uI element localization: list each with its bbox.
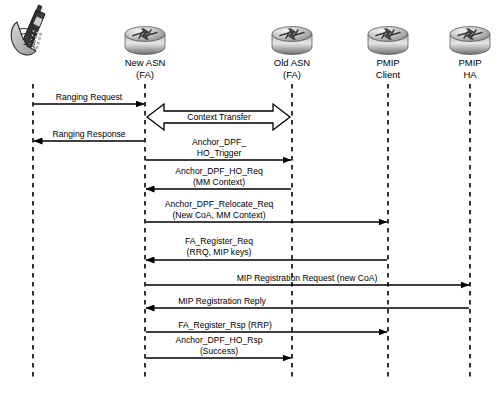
message-label-line1: Anchor_DPF_HO_Req [175,166,262,177]
node-label-old_asn: Old ASN(FA) [274,57,310,80]
message-label-7: FA_Register_Req(RRQ, MIP keys) [185,236,253,257]
node-label-line2: Client [376,69,400,81]
message-label-line1: Anchor_DPF_ [192,137,246,148]
message-label-line1: Ranging Request [56,92,122,103]
message-label-line1: MIP Registration Reply [178,296,266,307]
message-label-9: MIP Registration Reply [178,296,266,307]
node-label-line2: (FA) [125,69,166,81]
message-label-5: Anchor_DPF_HO_Req(MM Context) [175,166,262,187]
message-label-line2: (RRQ, MIP keys) [185,247,253,258]
mobile-phone-in-hand-icon [11,5,45,55]
message-label-6: Anchor_DPF_Relocate_Req(New CoA, MM Cont… [165,199,273,220]
message-label-line2: (Success) [176,346,263,357]
node-label-line1: New ASN [125,57,166,69]
node-label-line2: HA [458,69,481,81]
node-label-new_asn: New ASN(FA) [125,57,166,80]
message-label-line1: Context Transfer [187,112,251,123]
sequence-diagram-canvas: New ASN(FA)Old ASN(FA)PMIPClientPMIPHA R… [0,0,500,398]
router-icon [450,27,490,55]
message-label-2: Context Transfer [187,112,251,123]
message-label-line1: Anchor_DPF_Relocate_Req [165,199,273,210]
message-label-10: FA_Register_Rsp (RRP) [178,320,272,331]
node-label-line1: PMIP [458,57,481,69]
node-label-line1: PMIP [376,57,400,69]
node-label-line1: Old ASN [274,57,310,69]
message-label-line2: (New CoA, MM Context) [165,210,273,221]
node-icons-group [11,5,490,55]
router-icon [272,27,312,55]
message-label-3: Ranging Response [52,129,125,140]
node-label-line2: (FA) [274,69,310,81]
router-icon [125,27,165,55]
message-label-line2: HO_Trigger [192,148,246,159]
message-label-line1: Ranging Response [52,129,125,140]
message-label-line1: FA_Register_Rsp (RRP) [178,320,272,331]
router-icon [368,27,408,55]
message-label-line1: FA_Register_Req [185,236,253,247]
message-label-8: MIP Registration Request (new CoA) [237,273,378,284]
message-label-line2: (MM Context) [175,177,262,188]
node-label-pmip_ha: PMIPHA [458,57,481,80]
message-label-4: Anchor_DPF_HO_Trigger [192,137,246,158]
message-label-11: Anchor_DPF_HO_Rsp(Success) [176,335,263,356]
node-label-pmip_client: PMIPClient [376,57,400,80]
message-label-1: Ranging Request [56,92,122,103]
message-label-line1: MIP Registration Request (new CoA) [237,273,378,284]
message-label-line1: Anchor_DPF_HO_Rsp [176,335,263,346]
